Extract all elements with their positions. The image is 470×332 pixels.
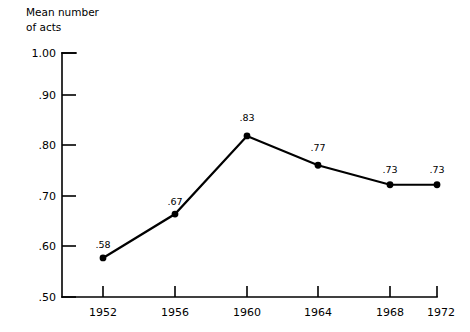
data-point — [244, 133, 251, 140]
data-series — [100, 133, 441, 262]
data-point — [315, 162, 322, 169]
data-point — [100, 255, 107, 262]
x-tick-label: 1956 — [161, 306, 189, 319]
point-label: .83 — [239, 112, 254, 123]
point-label: .77 — [310, 142, 325, 153]
x-tick-label: 1964 — [304, 306, 332, 319]
point-label: .67 — [167, 196, 182, 207]
x-tick-label: 1972 — [427, 306, 455, 319]
series-points — [100, 133, 441, 262]
data-point — [387, 181, 394, 188]
x-tick-label: 1952 — [89, 306, 117, 319]
point-label: .73 — [429, 164, 444, 175]
y-tick-label: .50 — [39, 291, 57, 304]
x-axis-ticks: 1952 1956 1960 1964 1968 1972 — [89, 286, 455, 319]
x-tick-label: 1968 — [376, 306, 404, 319]
data-point — [172, 211, 179, 218]
x-tick-label: 1960 — [233, 306, 261, 319]
y-tick-label: .70 — [39, 190, 57, 203]
line-chart-figure: Mean number of acts 1.00 .90 .80 .70 .60… — [0, 0, 470, 332]
y-tick-label: .60 — [39, 240, 57, 253]
series-line — [103, 136, 437, 258]
axes — [62, 53, 437, 297]
point-label: .58 — [95, 239, 110, 250]
chart-canvas: Mean number of acts 1.00 .90 .80 .70 .60… — [0, 0, 470, 332]
point-labels: .58 .67 .83 .77 .73 .73 — [95, 112, 444, 250]
y-tick-label: .80 — [39, 139, 57, 152]
y-axis-title: Mean number of acts — [26, 6, 100, 33]
point-label: .73 — [382, 164, 397, 175]
y-axis-title-line-2: of acts — [26, 21, 61, 33]
y-tick-label: 1.00 — [32, 47, 57, 60]
y-tick-label: .90 — [39, 89, 57, 102]
y-axis-ticks: 1.00 .90 .80 .70 .60 .50 — [32, 47, 77, 304]
y-axis-title-line-1: Mean number — [26, 6, 100, 18]
data-point — [434, 181, 441, 188]
